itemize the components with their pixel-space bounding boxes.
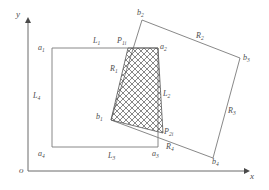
vertex-label-a3: a3 — [152, 150, 159, 158]
intersection-label-P2i: P2i — [164, 128, 173, 136]
y-axis-label: y — [16, 10, 20, 19]
edge-label-L4: L4 — [33, 92, 40, 100]
geometry-figure: y x o a1 a2 a3 a4 L1 L2 L3 L4 b1 b2 b3 b… — [0, 0, 269, 190]
vertex-label-b3: b3 — [243, 54, 250, 62]
overlap-region-hatched — [111, 48, 163, 133]
origin-label: o — [19, 166, 24, 175]
edge-label-L2: L2 — [163, 90, 170, 98]
vertex-label-b2: b2 — [137, 9, 144, 17]
edge-label-R2: R2 — [196, 32, 204, 40]
edge-label-L1: L1 — [93, 37, 100, 45]
edge-label-R3: R3 — [228, 107, 236, 115]
edge-label-R1: R1 — [110, 65, 118, 73]
edge-label-L3: L3 — [108, 152, 115, 160]
vertex-label-a4: a4 — [38, 150, 45, 158]
vertex-label-b1: b1 — [96, 113, 103, 121]
vertex-label-a2: a2 — [160, 43, 167, 51]
intersection-label-P1i: P1i — [117, 37, 126, 45]
vertex-label-a1: a1 — [38, 44, 45, 52]
vertex-label-b4: b4 — [212, 158, 219, 166]
edge-label-R4: R4 — [166, 143, 174, 151]
x-axis-label: x — [250, 172, 254, 181]
diagram-canvas — [0, 0, 269, 190]
